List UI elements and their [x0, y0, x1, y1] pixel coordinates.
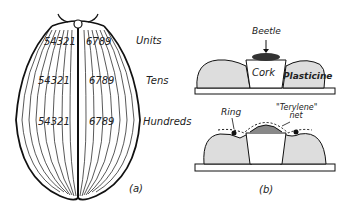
hundreds-left-digits: 54321	[38, 116, 70, 127]
cork-label: Cork	[252, 67, 275, 78]
tens-left-digits: 54321	[38, 75, 70, 86]
ring-label: Ring	[221, 107, 241, 117]
units-right-digits: 6789	[86, 36, 111, 47]
mount-bottom-drawing	[195, 118, 335, 171]
figure-b-caption: (b)	[259, 184, 273, 195]
units-left-digits: 54321	[44, 36, 76, 47]
hundreds-label: Hundreds	[143, 116, 191, 127]
tens-label: Tens	[146, 75, 169, 86]
figure-a-caption: (a)	[129, 183, 143, 194]
hundreds-right-digits: 6789	[89, 116, 114, 127]
beetle-elytra-drawing	[16, 14, 140, 200]
units-label: Units	[136, 35, 162, 46]
plasticine-label: Plasticine	[283, 71, 332, 81]
beetle-label: Beetle	[252, 26, 281, 36]
net-label: "Terylene" net	[276, 104, 316, 120]
tens-right-digits: 6789	[89, 75, 114, 86]
